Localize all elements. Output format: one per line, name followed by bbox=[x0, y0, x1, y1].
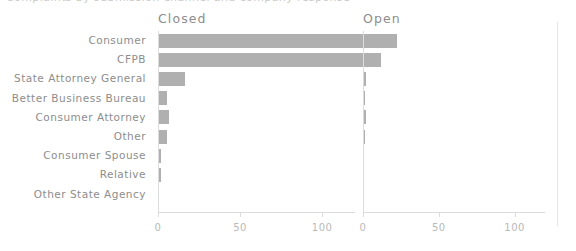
bar[interactable] bbox=[364, 130, 365, 144]
x-tick-mark bbox=[363, 213, 364, 217]
category-label: Consumer bbox=[0, 31, 152, 50]
bar[interactable] bbox=[159, 149, 161, 163]
bar[interactable] bbox=[159, 34, 376, 48]
bar[interactable] bbox=[364, 72, 366, 86]
bar[interactable] bbox=[159, 110, 169, 124]
category-label: Other State Agency bbox=[0, 185, 152, 204]
bar-row bbox=[158, 185, 355, 204]
x-tick-label: 100 bbox=[312, 222, 333, 233]
x-tick-label: 50 bbox=[233, 222, 247, 233]
bar-row bbox=[363, 165, 545, 184]
bar-row bbox=[158, 69, 355, 88]
x-tick-mark bbox=[515, 213, 516, 217]
bar-row bbox=[363, 185, 545, 204]
bar-row bbox=[363, 89, 545, 108]
bar[interactable] bbox=[364, 34, 397, 48]
panel-right-border bbox=[557, 22, 558, 226]
facet-title-open: Open bbox=[363, 11, 401, 26]
bar[interactable] bbox=[364, 53, 381, 67]
bar[interactable] bbox=[159, 168, 161, 182]
bar-row bbox=[158, 165, 355, 184]
category-label: Consumer Attorney bbox=[0, 108, 152, 127]
bars-open bbox=[363, 31, 545, 204]
bar-row bbox=[363, 31, 545, 50]
x-tick-mark bbox=[439, 213, 440, 217]
bar-row bbox=[363, 127, 545, 146]
x-tick-label: 0 bbox=[360, 222, 367, 233]
bar-row bbox=[158, 108, 355, 127]
x-tick-label: 50 bbox=[432, 222, 446, 233]
bar[interactable] bbox=[364, 91, 365, 105]
axis-line-bottom-closed bbox=[158, 212, 355, 213]
bar[interactable] bbox=[159, 72, 185, 86]
x-tick-mark bbox=[322, 213, 323, 217]
bar[interactable] bbox=[159, 53, 374, 67]
bar-row bbox=[363, 50, 545, 69]
category-axis-labels: ConsumerCFPBState Attorney GeneralBetter… bbox=[0, 31, 152, 204]
bar-row bbox=[158, 127, 355, 146]
panel-closed bbox=[158, 31, 355, 213]
x-tick-label: 0 bbox=[155, 222, 162, 233]
bar-row bbox=[363, 69, 545, 88]
bar-row bbox=[363, 108, 545, 127]
bar-row bbox=[158, 146, 355, 165]
category-label: Relative bbox=[0, 165, 152, 184]
category-label: Consumer Spouse bbox=[0, 146, 152, 165]
bar-row bbox=[158, 31, 355, 50]
bar-chart: Complaints by submission channel and com… bbox=[0, 0, 576, 251]
x-tick-mark bbox=[240, 213, 241, 217]
category-label: CFPB bbox=[0, 50, 152, 69]
bar[interactable] bbox=[364, 110, 366, 124]
category-label: Better Business Bureau bbox=[0, 89, 152, 108]
axis-line-bottom-open bbox=[363, 212, 545, 213]
chart-title-cropped: Complaints by submission channel and com… bbox=[0, 0, 576, 9]
bar-row bbox=[158, 89, 355, 108]
facet-title-closed: Closed bbox=[158, 11, 207, 26]
bar[interactable] bbox=[159, 91, 167, 105]
bars-closed bbox=[158, 31, 355, 204]
bar-row bbox=[363, 146, 545, 165]
category-label: State Attorney General bbox=[0, 69, 152, 88]
category-label: Other bbox=[0, 127, 152, 146]
panel-open bbox=[363, 31, 545, 213]
x-tick-mark bbox=[158, 213, 159, 217]
x-tick-label: 100 bbox=[504, 222, 525, 233]
bar[interactable] bbox=[159, 130, 167, 144]
bar-row bbox=[158, 50, 355, 69]
